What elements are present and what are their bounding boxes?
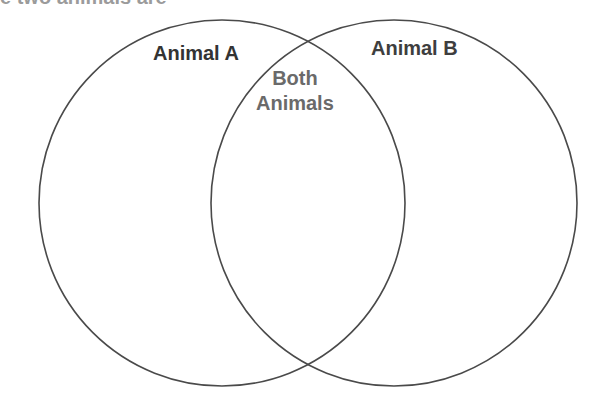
circle-animal-a bbox=[39, 20, 405, 386]
venn-diagram bbox=[0, 0, 603, 408]
label-both-line2: Animals bbox=[256, 91, 334, 116]
label-both-animals: Both Animals bbox=[256, 66, 334, 116]
label-animal-a: Animal A bbox=[153, 42, 239, 65]
label-animal-b: Animal B bbox=[371, 37, 458, 60]
label-both-line1: Both bbox=[256, 66, 334, 91]
